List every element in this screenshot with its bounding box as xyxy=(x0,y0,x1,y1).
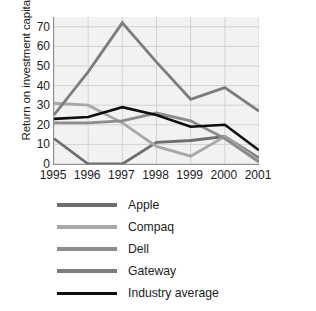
plot-area xyxy=(53,17,259,165)
chart-legend: AppleCompaqDellGatewayIndustry average xyxy=(0,196,316,311)
y-tick-label: 70 xyxy=(28,21,50,33)
x-tick-label: 1998 xyxy=(142,168,169,182)
legend-item: Industry average xyxy=(57,284,219,302)
x-tick-label: 1997 xyxy=(108,168,135,182)
x-tick-label: 2000 xyxy=(210,168,237,182)
legend-swatch xyxy=(57,269,117,272)
legend-swatch xyxy=(57,203,117,206)
legend-swatch xyxy=(57,292,117,295)
legend-item: Apple xyxy=(57,196,159,214)
chart-screenshot: Return on investment capital 01020304050… xyxy=(0,0,316,311)
legend-label: Dell xyxy=(128,243,149,255)
y-tick-label: 10 xyxy=(28,138,50,150)
x-tick-label: 1999 xyxy=(176,168,203,182)
y-axis-ticks: 010203040506070 xyxy=(26,0,50,190)
legend-label: Apple xyxy=(128,199,159,211)
plot-svg xyxy=(54,17,259,164)
y-tick-label: 60 xyxy=(28,40,50,52)
line-chart: Return on investment capital 01020304050… xyxy=(0,0,316,190)
x-tick-label: 1996 xyxy=(74,168,101,182)
y-tick-label: 30 xyxy=(28,99,50,111)
legend-item: Dell xyxy=(57,240,149,258)
y-tick-label: 20 xyxy=(28,119,50,131)
legend-label: Compaq xyxy=(128,221,174,233)
legend-swatch xyxy=(57,225,117,228)
y-tick-label: 40 xyxy=(28,80,50,92)
legend-item: Compaq xyxy=(57,218,174,236)
x-axis-ticks: 1995199619971998199920002001 xyxy=(0,168,316,188)
legend-label: Industry average xyxy=(128,287,219,299)
x-tick-label: 2001 xyxy=(245,168,272,182)
legend-label: Gateway xyxy=(128,265,176,277)
legend-swatch xyxy=(57,247,117,250)
x-tick-label: 1995 xyxy=(40,168,67,182)
y-tick-label: 50 xyxy=(28,60,50,72)
legend-item: Gateway xyxy=(57,262,176,280)
